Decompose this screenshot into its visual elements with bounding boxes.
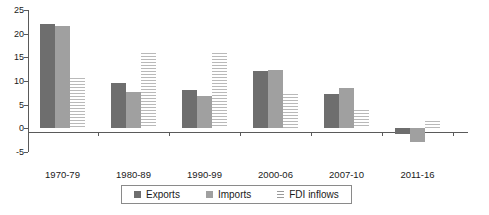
y-tick-label: 20	[0, 30, 24, 39]
y-tick	[24, 128, 28, 129]
category-label: 1990-99	[175, 170, 235, 180]
bar-fdi-inflows	[212, 53, 227, 129]
y-tick	[24, 105, 28, 106]
legend-item-exports: Exports	[134, 190, 180, 200]
bar-exports	[253, 71, 268, 129]
y-tick	[24, 57, 28, 58]
category-label: 1980-89	[104, 170, 164, 180]
legend-item-fdi-inflows: FDI inflows	[277, 190, 338, 200]
bar-exports	[182, 90, 197, 128]
y-tick-label: 0	[0, 124, 24, 133]
bar-imports	[268, 70, 283, 129]
y-axis-line	[28, 10, 29, 152]
x-tick	[169, 132, 170, 136]
legend-label-imports: Imports	[218, 190, 251, 200]
category-label: 2011-16	[388, 170, 448, 180]
legend-label-exports: Exports	[146, 190, 180, 200]
bar-imports	[55, 26, 70, 128]
bar-fdi-inflows	[141, 53, 156, 129]
bar-imports	[197, 96, 212, 129]
y-tick	[24, 34, 28, 35]
bar-group	[182, 10, 227, 152]
y-tick-label: 5	[0, 101, 24, 110]
bar-group	[395, 10, 440, 152]
category-label: 1970-79	[33, 170, 93, 180]
bar-imports	[410, 128, 425, 141]
exports-swatch-icon	[134, 191, 141, 198]
x-tick	[98, 132, 99, 136]
plot-area: 2520151050-5 1970-791980-891990-992000-0…	[28, 10, 468, 155]
bar-fdi-inflows	[425, 121, 440, 128]
bar-group	[324, 10, 369, 152]
bar-group	[111, 10, 156, 152]
fdi-inflows-swatch-icon	[277, 191, 284, 198]
bar-fdi-inflows	[354, 110, 369, 128]
legend-label-fdi-inflows: FDI inflows	[289, 190, 338, 200]
bar-chart: 2520151050-5 1970-791980-891990-992000-0…	[0, 0, 489, 215]
category-label: 2007-10	[317, 170, 377, 180]
bar-exports	[324, 94, 339, 128]
y-tick-label: 25	[0, 6, 24, 15]
x-tick	[240, 132, 241, 136]
bar-group	[40, 10, 85, 152]
chart-legend: Exports Imports FDI inflows	[121, 185, 352, 204]
y-tick-label: 10	[0, 77, 24, 86]
bar-group	[253, 10, 298, 152]
y-tick-label: 15	[0, 53, 24, 62]
bar-exports	[111, 83, 126, 128]
bar-exports	[395, 128, 410, 134]
bar-imports	[126, 92, 141, 128]
bar-exports	[40, 24, 55, 129]
x-tick	[311, 132, 312, 136]
category-label: 2000-06	[246, 170, 306, 180]
x-tick	[382, 132, 383, 136]
bar-fdi-inflows	[70, 78, 85, 129]
y-tick	[24, 152, 28, 153]
bar-fdi-inflows	[283, 94, 298, 128]
y-tick	[24, 81, 28, 82]
bar-imports	[339, 88, 354, 129]
y-tick-label: -5	[0, 148, 24, 157]
legend-item-imports: Imports	[206, 190, 251, 200]
y-tick	[24, 10, 28, 11]
x-tick	[453, 132, 454, 136]
y-axis-labels: 2520151050-5	[0, 10, 24, 152]
imports-swatch-icon	[206, 191, 213, 198]
